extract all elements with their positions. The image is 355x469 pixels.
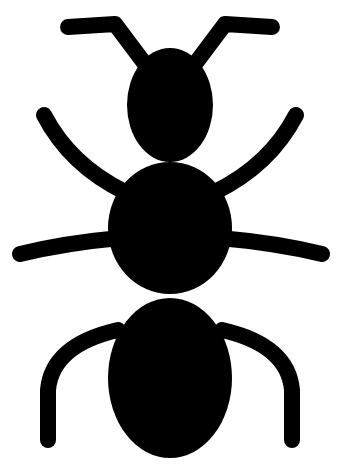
left-front-leg [44,115,125,192]
right-front-leg [215,115,296,192]
ant-icon-canvas [0,0,355,469]
left-antenna [68,24,148,68]
left-hind-leg [48,330,118,440]
ant-abdomen [108,298,232,458]
right-antenna [192,24,272,68]
ant-thorax [108,162,232,294]
right-hind-leg [222,330,292,440]
right-middle-leg [220,238,322,254]
left-middle-leg [20,238,120,254]
ant-icon [0,0,355,469]
ant-head [127,48,213,162]
